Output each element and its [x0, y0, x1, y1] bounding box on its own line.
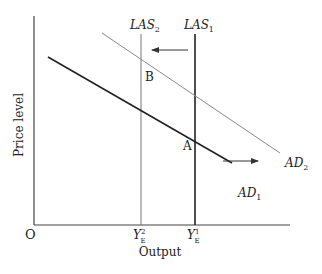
point-b-label: B	[145, 70, 154, 84]
ad1-line	[48, 57, 232, 163]
ad2-line	[102, 33, 280, 153]
x-tick-ye2: Y2E	[133, 228, 146, 245]
ad2-label: AD2	[284, 156, 308, 172]
x-tick-ye1: Y1E	[187, 228, 200, 245]
y-axis-title: Price level	[12, 93, 26, 157]
chart: LAS2 LAS1 AD2 AD1 B A O Y2E Y1E Output P…	[0, 0, 322, 274]
x-axis-title: Output	[139, 245, 182, 259]
ad1-label: AD1	[237, 186, 261, 202]
point-a-label: A	[182, 139, 192, 153]
las1-label: LAS1	[183, 18, 214, 34]
origin-label: O	[25, 227, 36, 242]
las2-label: LAS2	[129, 18, 160, 34]
